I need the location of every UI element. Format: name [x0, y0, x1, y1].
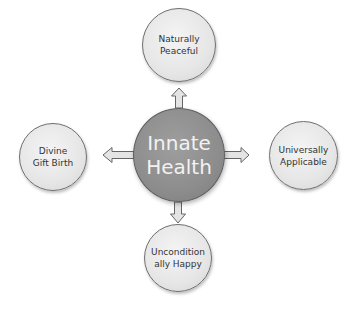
- node-label: Universally Applicable: [279, 144, 329, 168]
- node-divine-gift-birth: Divine Gift Birth: [19, 123, 87, 191]
- node-label: Naturally Peaceful: [158, 33, 199, 57]
- node-label: Uncondition ally Happy: [151, 246, 205, 270]
- node-innate-health: Innate Health: [133, 108, 225, 202]
- node-naturally-peaceful: Naturally Peaceful: [142, 8, 216, 82]
- arrow-right-icon: [223, 148, 249, 163]
- center-label: Innate Health: [146, 131, 212, 179]
- node-unconditionally-happy: Uncondition ally Happy: [144, 224, 212, 292]
- arrow-left-icon: [103, 148, 134, 163]
- arrow-down-icon: [171, 202, 186, 223]
- node-universally-applicable: Universally Applicable: [269, 121, 338, 190]
- node-label: Divine Gift Birth: [33, 145, 73, 169]
- arrow-up-icon: [172, 88, 187, 108]
